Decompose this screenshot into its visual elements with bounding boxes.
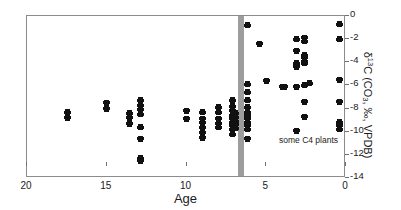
data-point: [245, 97, 250, 103]
y-axis-tick-label: -8: [350, 101, 358, 112]
y-axis-tick-label: -4: [350, 54, 358, 65]
data-point: [230, 131, 235, 137]
data-point: [337, 99, 342, 105]
data-point: [200, 109, 205, 115]
data-point: [184, 116, 189, 122]
y-axis-title-tail: , ‰, VPDB): [362, 101, 374, 158]
y-axis-tick-label: -14: [350, 170, 364, 181]
data-point: [337, 126, 342, 132]
carbon-isotope-scatter-figure: some C4 plants 201510500-2-4-6-8-10-12-1…: [0, 0, 401, 210]
data-point: [302, 114, 307, 120]
data-point: [138, 158, 143, 164]
y-axis-tick: [345, 15, 349, 16]
x-axis-tick-label: 20: [11, 180, 41, 191]
y-axis-tick: [345, 108, 349, 109]
y-axis-tick: [345, 84, 349, 85]
x-axis-tick-label: 0: [330, 180, 360, 191]
data-points-layer: [27, 16, 344, 176]
data-point: [337, 21, 342, 27]
plot-area: some C4 plants: [26, 15, 345, 177]
y-axis-title: δ13C (CO3, ‰, VPDB): [361, 52, 375, 159]
y-axis-tick-label: 0: [350, 8, 355, 19]
y-axis-tick-label: -2: [350, 31, 358, 42]
data-point: [233, 125, 238, 131]
x-axis-tick-label: 10: [171, 180, 201, 191]
data-point: [337, 36, 342, 42]
data-point: [138, 111, 143, 117]
data-point: [294, 128, 299, 134]
data-point: [245, 81, 250, 87]
data-point: [302, 38, 307, 44]
data-point: [245, 89, 250, 95]
y-axis-title-c: C (CO: [362, 66, 374, 97]
y-axis-tick: [345, 61, 349, 62]
data-point: [294, 84, 299, 90]
data-point: [257, 41, 262, 47]
data-point: [294, 64, 299, 70]
x-axis-tick-label: 5: [250, 180, 280, 191]
data-point: [294, 48, 299, 54]
data-point: [184, 108, 189, 114]
data-point: [127, 121, 132, 127]
data-point: [264, 78, 269, 84]
data-point: [216, 124, 221, 130]
data-point: [282, 84, 287, 90]
c4-plants-annotation: some C4 plants: [279, 135, 338, 145]
y-axis-tick: [345, 154, 349, 155]
x-axis-tick: [186, 162, 187, 166]
data-point: [138, 136, 143, 142]
x-axis-title: Age: [26, 191, 345, 206]
y-axis-tick: [345, 177, 349, 178]
x-axis-tick-label: 15: [91, 180, 121, 191]
y-axis-tick: [345, 38, 349, 39]
x-axis-tick: [345, 162, 346, 166]
data-point: [245, 136, 250, 142]
data-point: [65, 115, 70, 121]
y-axis-tick: [345, 131, 349, 132]
data-point: [294, 36, 299, 42]
data-point: [337, 77, 342, 83]
x-axis-tick: [265, 162, 266, 166]
data-point: [302, 60, 307, 66]
data-point: [245, 126, 250, 132]
y-axis-tick-label: -6: [350, 77, 358, 88]
x-axis-tick: [26, 162, 27, 166]
data-point: [216, 109, 221, 115]
data-point: [200, 135, 205, 141]
data-point: [138, 124, 143, 130]
data-point: [245, 22, 250, 28]
data-point: [307, 80, 312, 86]
data-point: [302, 99, 307, 105]
data-point: [104, 106, 109, 112]
x-axis-tick: [106, 162, 107, 166]
